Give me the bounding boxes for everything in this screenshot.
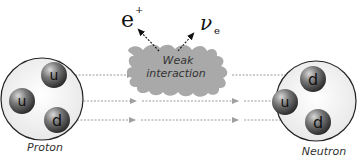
neutrino-symbol: ν e xyxy=(200,11,220,36)
neutron-quark-3-label: d xyxy=(313,113,323,132)
positron-letter: e xyxy=(121,7,134,32)
beta-decay-diagram: Weak interaction e + ν e u u d Proton d … xyxy=(0,0,361,163)
positron-charge: + xyxy=(135,4,143,15)
proton-quark-1-label: u xyxy=(50,67,59,83)
neutron-quark-2-label: u xyxy=(281,94,290,110)
proton-quark-3-label: d xyxy=(52,111,62,130)
neutron: d u d Neutron xyxy=(272,61,356,158)
neutrino-letter: ν xyxy=(200,11,212,35)
proton-label: Proton xyxy=(27,141,63,154)
neutron-label: Neutron xyxy=(302,145,347,158)
positron-symbol: e + xyxy=(121,4,143,32)
interaction-label-line1: Weak xyxy=(163,54,194,67)
neutrino-flavor: e xyxy=(214,25,220,36)
interaction-label-line2: interaction xyxy=(146,67,206,80)
neutron-quark-1-label: d xyxy=(308,70,318,89)
proton-quark-2-label: u xyxy=(18,93,27,109)
proton: u u d Proton xyxy=(1,58,83,154)
